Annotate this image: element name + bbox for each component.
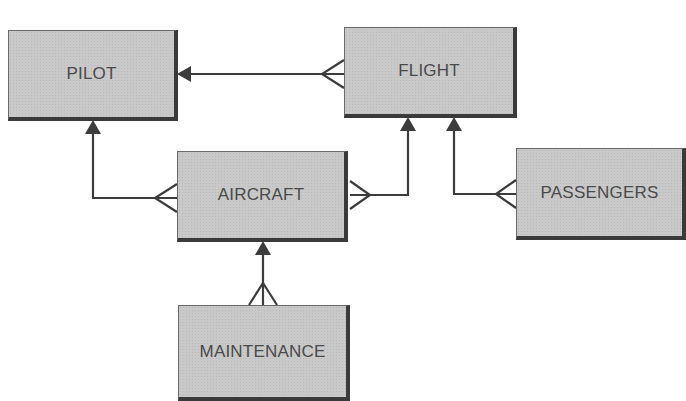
entity-flight[interactable]: FLIGHT	[344, 27, 517, 118]
arrowhead-icon	[400, 117, 416, 131]
entity-maintenance[interactable]: MAINTENANCE	[178, 305, 350, 401]
entity-label: PILOT	[66, 64, 116, 84]
arrowhead-icon	[85, 120, 101, 134]
entity-label: FLIGHT	[398, 61, 460, 81]
arrowhead-icon	[177, 66, 191, 82]
link-flight-pilot	[186, 60, 344, 88]
entity-aircraft[interactable]: AIRCRAFT	[177, 151, 348, 242]
link-maintenance-aircraft	[249, 252, 277, 305]
arrowhead-icon	[446, 117, 462, 131]
entity-pilot[interactable]: PILOT	[8, 30, 178, 121]
entity-label: AIRCRAFT	[218, 185, 305, 205]
link-aircraft-flight	[350, 126, 408, 209]
entity-label: PASSENGERS	[541, 183, 659, 203]
arrowhead-icon	[255, 241, 271, 255]
entity-label: MAINTENANCE	[200, 342, 326, 362]
link-passengers-flight	[454, 126, 516, 208]
entity-passengers[interactable]: PASSENGERS	[516, 148, 686, 240]
link-aircraft-pilot	[93, 128, 177, 212]
